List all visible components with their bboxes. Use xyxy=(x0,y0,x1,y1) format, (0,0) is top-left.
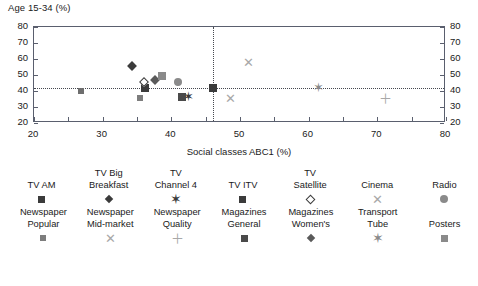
legend-label-line1 xyxy=(376,168,379,180)
y-tick-label-right: 80 xyxy=(450,20,472,31)
y-tick xyxy=(34,43,38,44)
y-tick xyxy=(34,91,38,92)
y-tick xyxy=(34,27,38,28)
y-tick-label-right: 70 xyxy=(450,36,472,47)
x-tick-label: 60 xyxy=(293,128,323,139)
legend-label-line1: Magazines xyxy=(288,207,333,219)
legend-item[interactable]: NewspaperPopular xyxy=(10,207,77,246)
legend-label-line2: General xyxy=(227,219,260,231)
legend-label-line1: Newspaper xyxy=(20,207,67,219)
legend-label-line1 xyxy=(242,168,245,180)
data-point[interactable]: ✶ xyxy=(313,81,324,94)
x-tick-label: 50 xyxy=(224,128,254,139)
legend-marker: ✶ xyxy=(170,191,182,207)
legend-label-line2: Tube xyxy=(367,219,388,231)
legend-item[interactable]: TV BigBreakfast xyxy=(75,168,142,207)
x-tick xyxy=(377,117,378,121)
y-tick xyxy=(440,91,444,92)
legend-item[interactable]: NewspaperMid-market✕ xyxy=(77,207,144,246)
legend-marker xyxy=(239,191,246,207)
legend-row-2: NewspaperPopularNewspaperMid-market✕News… xyxy=(0,207,478,246)
x-tick xyxy=(274,117,275,121)
legend-marker: ＋ xyxy=(171,230,184,246)
legend-label-line2: Mid-market xyxy=(87,219,134,231)
data-point[interactable]: ＋ xyxy=(379,92,392,105)
legend-marker: ✕ xyxy=(105,230,116,246)
legend-item[interactable]: TV ITV xyxy=(209,168,276,207)
y-tick-label-left: 60 xyxy=(6,52,28,63)
x-tick xyxy=(137,117,138,121)
legend-label-line2: Cinema xyxy=(361,180,393,192)
y-tick-label-left: 30 xyxy=(6,100,28,111)
legend-marker xyxy=(441,230,448,246)
legend-label-line2: TV AM xyxy=(28,180,56,192)
legend-label-line1: Transport xyxy=(358,207,397,219)
legend-label-line2: Popular xyxy=(27,219,59,231)
legend-label-line2: Breakfast xyxy=(89,180,128,192)
legend-label-line2: Radio xyxy=(432,180,456,192)
legend-label-line2: Quality xyxy=(163,219,192,231)
data-point[interactable] xyxy=(174,78,182,86)
y-tick xyxy=(440,75,444,76)
y-tick xyxy=(440,27,444,28)
legend-item[interactable]: TVChannel 4✶ xyxy=(142,168,209,207)
legend-item[interactable]: TV AM xyxy=(8,168,75,207)
data-point[interactable]: ✕ xyxy=(243,55,254,68)
x-tick xyxy=(171,117,172,121)
legend-label-line2: Posters xyxy=(429,219,461,231)
data-point[interactable]: ✕ xyxy=(225,92,236,105)
legend-marker xyxy=(40,230,46,246)
y-tick xyxy=(440,59,444,60)
y-tick-label-right: 40 xyxy=(450,84,472,95)
legend-item[interactable]: NewspaperQuality＋ xyxy=(144,207,211,246)
legend-item[interactable]: Cinema✕ xyxy=(344,168,411,207)
data-point[interactable] xyxy=(137,95,143,101)
x-tick-label: 30 xyxy=(87,128,117,139)
legend-item[interactable]: MagazinesGeneral xyxy=(211,207,278,246)
x-tick xyxy=(446,117,447,121)
legend-label-line1 xyxy=(443,207,446,219)
legend-marker xyxy=(106,191,112,207)
x-tick-label: 40 xyxy=(155,128,185,139)
x-tick-label: 80 xyxy=(430,128,460,139)
legend-label-line1: Magazines xyxy=(222,207,267,219)
legend-marker: ✶ xyxy=(372,230,384,246)
data-point[interactable] xyxy=(178,93,186,101)
y-tick-label-right: 60 xyxy=(450,52,472,63)
y-tick xyxy=(440,123,444,124)
reference-line-vertical xyxy=(213,27,214,121)
legend-marker xyxy=(307,191,314,207)
y-tick-label-left: 50 xyxy=(6,68,28,79)
y-tick xyxy=(440,107,444,108)
y-tick-label-right: 30 xyxy=(450,100,472,111)
x-tick-label: 70 xyxy=(361,128,391,139)
legend-label-line1: TV Big xyxy=(95,168,123,180)
legend-label-line1 xyxy=(40,168,43,180)
legend-item[interactable]: TransportTube✶ xyxy=(344,207,411,246)
x-tick xyxy=(68,117,69,121)
legend-label-line2: Women's xyxy=(292,219,330,231)
x-tick xyxy=(206,117,207,121)
data-point[interactable] xyxy=(127,61,137,71)
legend-label-line1: Newspaper xyxy=(154,207,201,219)
y-tick xyxy=(34,123,38,124)
x-tick xyxy=(103,117,104,121)
x-axis-title: Social classes ABC1 (%) xyxy=(0,146,478,157)
legend-label-line1: Newspaper xyxy=(87,207,134,219)
y-tick-label-right: 20 xyxy=(450,116,472,127)
x-tick xyxy=(309,117,310,121)
legend-marker xyxy=(440,191,448,207)
data-point[interactable] xyxy=(78,88,84,94)
y-tick xyxy=(34,75,38,76)
chart-legend: TV AMTV BigBreakfastTVChannel 4✶ TV ITVT… xyxy=(0,168,478,246)
legend-item[interactable]: Posters xyxy=(411,207,478,246)
y-tick xyxy=(34,59,38,60)
data-point[interactable] xyxy=(158,72,166,80)
plot-area: ✶✕✕＋✶ xyxy=(33,26,445,122)
legend-item[interactable]: Radio xyxy=(411,168,478,207)
legend-item[interactable]: MagazinesWomen's xyxy=(277,207,344,246)
legend-label-line1 xyxy=(443,168,446,180)
legend-item[interactable]: TVSatellite xyxy=(277,168,344,207)
y-tick-label-left: 40 xyxy=(6,84,28,95)
data-point[interactable] xyxy=(209,84,217,92)
